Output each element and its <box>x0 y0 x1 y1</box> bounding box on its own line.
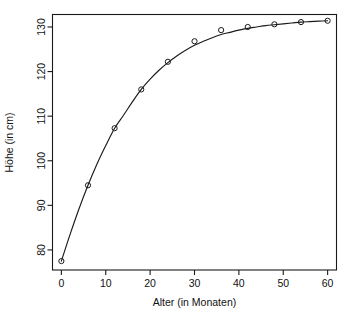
y-tick-label-120: 120 <box>35 63 47 81</box>
y-tick-label-100: 100 <box>35 152 47 170</box>
x-axis-ticks <box>61 270 327 275</box>
y-tick-label-130: 130 <box>35 18 47 36</box>
y-axis-tick-labels: 8090100110120130 <box>35 18 47 256</box>
y-tick-label-90: 90 <box>35 199 47 211</box>
y-axis-ticks <box>48 27 53 250</box>
y-tick-label-110: 110 <box>35 108 47 125</box>
y-tick-label-80: 80 <box>35 244 47 256</box>
x-tick-label-60: 60 <box>322 277 334 289</box>
x-tick-label-0: 0 <box>58 277 64 289</box>
x-tick-label-50: 50 <box>277 277 289 289</box>
data-point <box>219 28 224 33</box>
growth-chart-figure: 0102030405060 8090100110120130 Alter (in… <box>0 0 353 323</box>
data-point <box>192 39 197 44</box>
x-tick-label-40: 40 <box>233 277 245 289</box>
plot-area-border <box>53 15 337 271</box>
data-point-group <box>59 18 330 264</box>
x-tick-label-10: 10 <box>100 277 112 289</box>
fitted-growth-curve <box>61 21 327 261</box>
x-tick-label-30: 30 <box>189 277 201 289</box>
x-axis-tick-labels: 0102030405060 <box>58 277 333 289</box>
x-tick-label-20: 20 <box>144 277 156 289</box>
y-axis-title: Höhe (in cm) <box>3 112 15 172</box>
chart-canvas: 0102030405060 8090100110120130 Alter (in… <box>0 0 353 323</box>
x-axis-title: Alter (in Monaten) <box>153 296 236 308</box>
